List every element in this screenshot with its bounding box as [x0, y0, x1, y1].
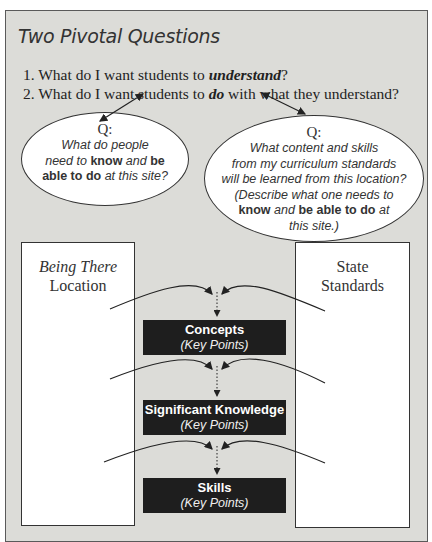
diagram-title: Two Pivotal Questions — [18, 25, 220, 47]
question-2: 2. What do I want students to do with wh… — [23, 84, 399, 103]
being-there-location-column: Being There Location — [21, 242, 135, 526]
state-standards-column: State Standards — [295, 242, 410, 528]
right-question-bubble: Q: What content and skills from my curri… — [204, 115, 424, 242]
diagram-panel: Two Pivotal Questions 1. What do I want … — [5, 10, 428, 542]
stage-concepts-box: Concepts (Key Points) — [143, 320, 286, 355]
pivotal-questions-list: 1. What do I want students to understand… — [23, 65, 399, 103]
stage-skills-box: Skills (Key Points) — [143, 478, 286, 513]
stage-significant-knowledge-box: Significant Knowledge (Key Points) — [143, 400, 286, 435]
question-1: 1. What do I want students to understand… — [23, 65, 399, 84]
left-question-bubble: Q: What do people need to know and be ab… — [21, 112, 189, 206]
